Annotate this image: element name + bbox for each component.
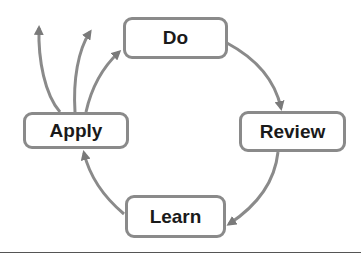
arrow-apply-outward-1 <box>39 28 60 112</box>
node-learn: Learn <box>125 195 226 238</box>
horizontal-divider <box>0 252 361 253</box>
node-learn-label: Learn <box>150 206 202 228</box>
node-apply: Apply <box>23 112 129 149</box>
node-apply-label: Apply <box>50 120 103 142</box>
node-do-label: Do <box>163 27 188 49</box>
node-review: Review <box>239 111 346 152</box>
arrow-learn-to-apply <box>84 153 124 214</box>
arrow-do-to-review <box>227 43 281 108</box>
arrow-apply-to-do <box>86 52 119 112</box>
node-do: Do <box>123 17 228 59</box>
arrow-review-to-learn <box>229 152 278 224</box>
node-review-label: Review <box>260 121 325 143</box>
